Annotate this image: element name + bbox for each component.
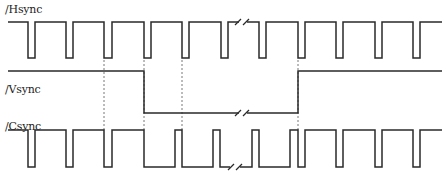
timing-diagram	[0, 0, 448, 180]
hsync-waveform	[8, 22, 442, 58]
csync-waveform	[8, 130, 442, 167]
vsync-waveform	[8, 71, 442, 113]
csync-break-icon	[228, 164, 242, 170]
